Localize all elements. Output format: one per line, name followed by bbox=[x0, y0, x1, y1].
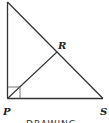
hypotenuse bbox=[8, 2, 104, 99]
label-p: P bbox=[2, 106, 11, 117]
caption: DRAWING bbox=[26, 119, 77, 123]
label-r: R bbox=[57, 40, 66, 51]
label-s: S bbox=[100, 106, 107, 117]
triangle-diagram: R P S DRAWING bbox=[0, 0, 109, 123]
segment-pr bbox=[8, 52, 58, 99]
